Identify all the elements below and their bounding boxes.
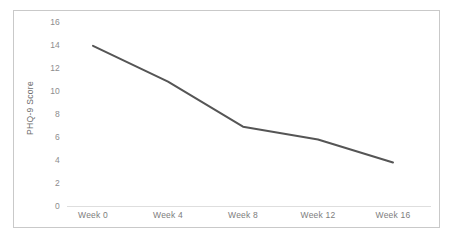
x-axis-tick-label: Week 8 — [213, 210, 273, 220]
x-axis-tick-label: Week 0 — [63, 210, 123, 220]
chart-frame: PHQ-9 Score 16 14 12 10 8 6 4 2 0 Week 0… — [13, 10, 440, 228]
plot-area: PHQ-9 Score 16 14 12 10 8 6 4 2 0 Week 0… — [14, 11, 441, 229]
series-line-phq9 — [14, 11, 441, 229]
data-line — [93, 46, 393, 163]
x-axis-tick-label: Week 4 — [138, 210, 198, 220]
x-axis-tick-label: Week 12 — [288, 210, 348, 220]
x-axis-tick-label: Week 16 — [363, 210, 423, 220]
